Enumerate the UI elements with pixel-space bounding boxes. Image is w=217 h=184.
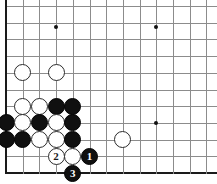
board-edge-bottom [6,172,217,174]
move-3-black-stone[interactable]: 3 [64,165,81,182]
move-1-black-stone[interactable]: 1 [81,148,98,165]
grid-line-horizontal [6,56,217,57]
white-stone-3[interactable] [14,98,31,115]
black-stone-7[interactable] [14,131,31,148]
go-board[interactable]: 213 [0,0,217,184]
move-number-label: 1 [87,150,93,161]
grid-line-vertical [206,0,207,174]
hoshi-center-right-icon [154,121,158,125]
white-stone-6[interactable] [48,114,65,131]
grid-line-horizontal [6,156,217,157]
white-stone-5[interactable] [14,114,31,131]
grid-line-vertical [173,0,174,174]
move-2-white-stone[interactable]: 2 [48,148,65,165]
black-stone-6[interactable] [0,131,15,148]
black-stone-3[interactable] [0,114,15,131]
white-stone-9[interactable] [114,131,131,148]
white-stone-4[interactable] [31,98,48,115]
move-number-label: 2 [53,150,59,161]
black-stone-4[interactable] [31,114,48,131]
grid-line-vertical [140,0,141,174]
grid-line-horizontal [6,39,217,40]
hoshi-top-right-icon [154,25,158,29]
black-stone-8[interactable] [64,131,81,148]
grid-line-vertical [106,0,107,174]
grid-line-horizontal [6,73,217,74]
white-stone-7[interactable] [31,131,48,148]
black-stone-2[interactable] [64,98,81,115]
grid-line-vertical [190,0,191,174]
grid-line-horizontal [6,23,217,24]
black-stone-1[interactable] [48,98,65,115]
black-stone-5[interactable] [64,114,81,131]
move-number-label: 3 [70,167,76,178]
white-stone-10[interactable] [64,148,81,165]
white-stone-1[interactable] [14,64,31,81]
white-stone-2[interactable] [48,64,65,81]
hoshi-top-left-icon [54,25,58,29]
grid-line-horizontal [6,6,217,7]
white-stone-8[interactable] [48,131,65,148]
grid-line-horizontal [6,90,217,91]
